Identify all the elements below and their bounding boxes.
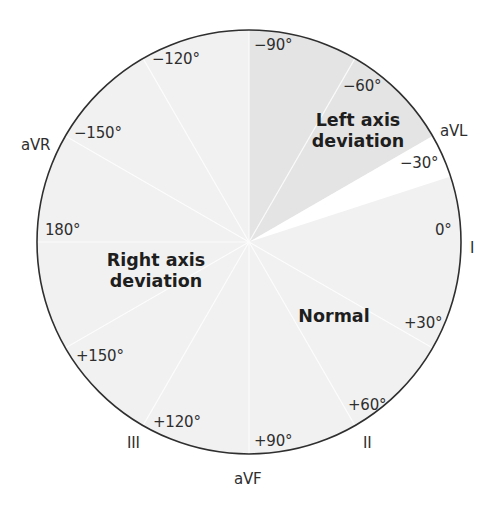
angle-label-neg90: −90° xyxy=(254,38,292,53)
angle-label-neg120: −120° xyxy=(152,52,200,67)
lead-label-aVR: aVR xyxy=(21,138,50,153)
normal-axis-label: Normal xyxy=(284,306,384,327)
axis-circle-graphic xyxy=(0,0,491,505)
lead-label-III: III xyxy=(127,436,140,451)
left-axis-deviation-label: Left axis deviation xyxy=(288,110,428,151)
angle-label-pos60: +60° xyxy=(348,398,386,413)
lead-label-I: I xyxy=(470,241,474,256)
lead-label-aVF: aVF xyxy=(234,472,261,487)
lead-label-aVL: aVL xyxy=(440,124,467,139)
cardiac-axis-diagram: Left axis deviation Right axis deviation… xyxy=(0,0,491,505)
angle-label-neg60: −60° xyxy=(343,79,381,94)
left-axis-line2: deviation xyxy=(288,131,428,152)
angle-label-0: 0° xyxy=(435,223,452,238)
angle-label-pos120: +120° xyxy=(153,415,201,430)
angle-label-pos30: +30° xyxy=(404,316,442,331)
angle-label-180: 180° xyxy=(45,223,80,238)
angle-label-pos150: +150° xyxy=(76,349,124,364)
angle-label-pos90: +90° xyxy=(254,434,292,449)
right-axis-line2: deviation xyxy=(86,271,226,292)
left-axis-line1: Left axis xyxy=(288,110,428,131)
right-axis-deviation-label: Right axis deviation xyxy=(86,250,226,291)
angle-label-neg30: −30° xyxy=(400,156,438,171)
normal-label-text: Normal xyxy=(284,306,384,327)
lead-label-II: II xyxy=(363,436,371,451)
angle-label-neg150: −150° xyxy=(74,126,122,141)
right-axis-line1: Right axis xyxy=(86,250,226,271)
